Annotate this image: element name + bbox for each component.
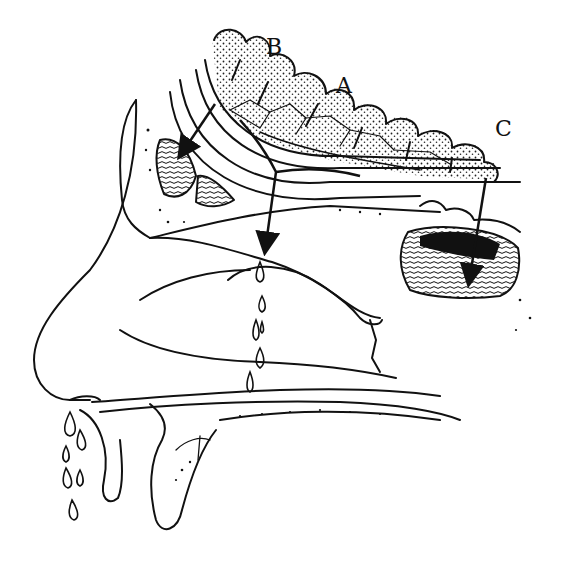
anatomy-drawing [0,0,561,567]
label-b: B [266,36,282,58]
nasal-drops [247,262,265,392]
label-a: A [336,75,352,97]
hard-palate [92,389,440,402]
label-c: C [495,118,512,140]
anatomy-diagram: A B C [0,0,561,567]
nostril-drops [63,412,86,520]
